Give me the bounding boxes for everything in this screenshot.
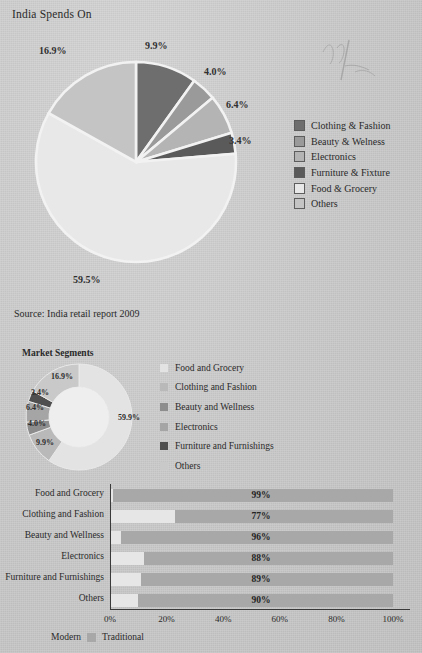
legend-swatch-icon [294, 151, 305, 162]
bar-segment-modern [110, 552, 144, 565]
bar-chart-legend: ModernTraditional [36, 632, 144, 642]
bar-category-label: Furniture and Furnishings [5, 572, 104, 582]
bar-category-label: Others [79, 593, 104, 603]
legend-item-label: Clothing & Fashion [311, 120, 390, 131]
donut-legend-item: Beauty and Wellness [160, 397, 274, 417]
donut-slices [26, 364, 132, 470]
bar-axis-tick: 100% [377, 614, 409, 624]
donut-legend-label: Others [175, 461, 200, 471]
legend-item-others: Others [294, 196, 390, 212]
legend-swatch-icon [160, 403, 168, 411]
bar-value-label: 89% [252, 574, 271, 584]
legend-swatch-icon [294, 120, 305, 131]
bar-category-label: Beauty and Wellness [25, 530, 104, 540]
legend-item-furniture-fixture: Furniture & Fixture [294, 165, 390, 181]
legend-item-food-grocery: Food & Grocery [294, 180, 390, 196]
bar-axis-tick: 60% [264, 614, 296, 624]
pie-label-food: 59.5% [73, 274, 101, 285]
bar-category-label: Clothing and Fashion [22, 509, 104, 519]
bar-segment-traditional [175, 510, 393, 523]
pie-label-beauty: 4.0% [204, 66, 227, 77]
legend-swatch-icon [160, 364, 168, 372]
donut-label-furniture: 3.4% [31, 388, 49, 397]
donut-hole [49, 387, 109, 447]
bar-segment-modern [110, 531, 121, 544]
bar-axis-tick: 80% [320, 614, 352, 624]
donut-chart-title: Market Segments [22, 348, 94, 358]
legend-swatch-icon [294, 167, 305, 178]
donut-legend-label: Electronics [175, 422, 218, 432]
legend-item-label: Food & Grocery [311, 183, 377, 194]
pie-chart: 9.9% 4.0% 6.4% 3.4% 59.5% 16.9% [33, 46, 253, 276]
legend-item-label: Others [311, 198, 338, 209]
bar-value-label: 77% [252, 511, 271, 521]
legend-swatch-icon [294, 136, 305, 147]
legend-swatch-icon [294, 183, 305, 194]
legend-item-clothing-fashion: Clothing & Fashion [294, 118, 390, 134]
donut-chart: 59.9% 9.9% 4.0% 6.4% 3.4% 16.9% [18, 360, 158, 475]
pie-label-furniture: 3.4% [229, 135, 252, 146]
donut-chart-legend: Food and GroceryClothing and FashionBeau… [160, 358, 274, 476]
pie-label-electronics: 6.4% [226, 99, 249, 110]
bar-segment-modern [110, 510, 175, 523]
legend-swatch-icon [294, 198, 305, 209]
pie-label-others: 16.9% [39, 45, 67, 56]
pie-chart-legend: Clothing & FashionBeauty & WelnessElectr… [294, 118, 390, 212]
bar-segment-modern [110, 594, 138, 607]
bar-chart-section: Food and Grocery99%Clothing and Fashion7… [0, 478, 422, 653]
donut-legend-label: Food and Grocery [175, 363, 244, 373]
bar-axis-tick: 40% [207, 614, 239, 624]
pie-label-clothing: 9.9% [145, 40, 168, 51]
donut-legend-item: Electronics [160, 417, 274, 437]
legend-item-label: Electronics [311, 151, 356, 162]
bar-value-label: 96% [252, 532, 271, 542]
donut-legend-item: Clothing and Fashion [160, 378, 274, 398]
donut-legend-label: Furniture and Furnishings [175, 441, 274, 451]
donut-label-others: 16.9% [51, 372, 73, 381]
page-title: India Spends On [12, 8, 92, 20]
donut-legend-label: Clothing and Fashion [175, 382, 257, 392]
legend-swatch-icon [160, 462, 168, 470]
donut-legend-item: Others [160, 456, 274, 476]
legend-item-electronics: Electronics [294, 149, 390, 165]
donut-legend-item: Food and Grocery [160, 358, 274, 378]
handwriting-scribble-icon [315, 36, 405, 88]
legend-swatch-icon [160, 423, 168, 431]
legend-swatch-icon [160, 383, 168, 391]
source-note: Source: India retail report 2009 [14, 308, 140, 319]
bar-chart-y-axis [110, 484, 111, 610]
pie-chart-svg [33, 46, 253, 276]
bar-chart-x-axis [110, 609, 410, 610]
bar-legend-label: Modern [51, 632, 81, 642]
bar-axis-tick: 0% [94, 614, 126, 624]
bar-value-label: 99% [252, 490, 271, 500]
legend-swatch-icon [87, 633, 96, 642]
donut-legend-label: Beauty and Wellness [175, 402, 254, 412]
bar-axis-tick: 20% [151, 614, 183, 624]
donut-label-beauty: 4.0% [28, 419, 46, 428]
bar-value-label: 88% [252, 553, 271, 563]
pie-slices [36, 62, 236, 262]
bar-category-label: Food and Grocery [35, 488, 104, 498]
bar-legend-label: Traditional [102, 632, 144, 642]
donut-label-food: 59.9% [118, 413, 140, 422]
bar-category-label: Electronics [61, 551, 104, 561]
legend-item-label: Beauty & Welness [311, 136, 385, 147]
donut-legend-item: Furniture and Furnishings [160, 436, 274, 456]
donut-label-clothing: 9.9% [36, 438, 54, 447]
bar-segment-modern [110, 573, 141, 586]
donut-label-electronics: 6.4% [26, 403, 44, 412]
legend-item-beauty-welness: Beauty & Welness [294, 134, 390, 150]
bar-value-label: 90% [252, 595, 271, 605]
legend-item-label: Furniture & Fixture [311, 167, 390, 178]
legend-swatch-icon [160, 442, 168, 450]
